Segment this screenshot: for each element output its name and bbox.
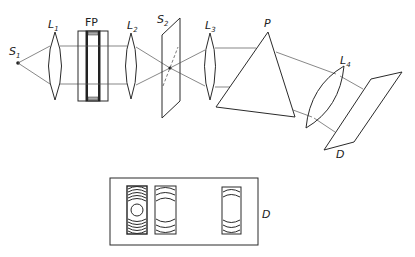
fringe-panel-2 <box>155 186 176 234</box>
lens-l1 <box>49 32 62 100</box>
label-d: D <box>336 148 344 161</box>
label-p: P <box>264 17 271 30</box>
fringe-panel-3 <box>222 187 241 234</box>
detector-plane-d <box>324 72 402 150</box>
label-inset-d: D <box>262 208 270 221</box>
label-s2: S2 <box>157 13 169 28</box>
detector-inset: D <box>110 178 270 245</box>
label-fp: FP <box>85 16 98 29</box>
prism-p <box>216 32 295 117</box>
label-l3: L3 <box>205 19 216 34</box>
lens-l3 <box>205 33 216 100</box>
lens-l2 <box>126 33 137 99</box>
optical-setup-diagram: S1 L1 FP L2 S2 L3 P <box>0 0 415 257</box>
slit-s2 <box>162 18 180 118</box>
lens-l4 <box>306 66 344 128</box>
fabry-perot-etalon <box>78 31 108 101</box>
label-l1: L1 <box>48 18 59 33</box>
label-l4: L4 <box>340 54 351 69</box>
fringe-panel-1 <box>127 186 147 234</box>
label-l2: L2 <box>127 19 138 34</box>
label-s1: S1 <box>9 45 20 60</box>
